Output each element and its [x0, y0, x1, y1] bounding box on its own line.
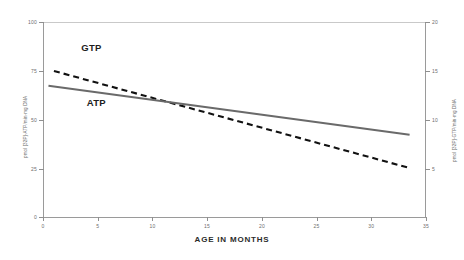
- y-tick-label-left: 75: [11, 68, 37, 74]
- y-tick-label-right: 5: [432, 166, 458, 172]
- y-tick-label-left: 25: [11, 166, 37, 172]
- series-label-gtp: GTP: [81, 42, 101, 53]
- x-tick-label: 35: [414, 223, 438, 229]
- x-axis-title: AGE IN MONTHS: [0, 235, 464, 244]
- x-tick-label: 10: [140, 223, 164, 229]
- y-axis-left-title: pmol [32P]-ATP/min·mg DNA: [23, 96, 28, 158]
- x-tick-label: 25: [305, 223, 329, 229]
- x-tick-label: 0: [31, 223, 55, 229]
- series-line-gtp: [54, 71, 410, 168]
- x-tick: [426, 217, 427, 221]
- series-line-atp: [48, 86, 409, 135]
- y-tick-label-left: 100: [11, 19, 37, 25]
- x-tick-label: 20: [250, 223, 274, 229]
- x-tick-label: 15: [195, 223, 219, 229]
- plot-area: 100 75 50 25 0 20 15 10 5 0 5 10 15 20 2…: [43, 22, 426, 218]
- x-tick-label: 5: [86, 223, 110, 229]
- y-tick-label-right: 20: [432, 19, 458, 25]
- x-tick-label: 30: [359, 223, 383, 229]
- y-tick-label-right: 15: [432, 68, 458, 74]
- y-tick-label-left: 0: [11, 214, 37, 220]
- series-label-atp: ATP: [87, 97, 106, 108]
- chart-figure: pmol [32P]-ATP/min·mg DNA pmol [32P]-GTP…: [0, 0, 464, 260]
- y-tick-label-right: 10: [432, 117, 458, 123]
- y-axis-right-title: pmol [32P]-GTP/min·mg DNA: [452, 99, 457, 162]
- y-tick-label-left: 50: [11, 117, 37, 123]
